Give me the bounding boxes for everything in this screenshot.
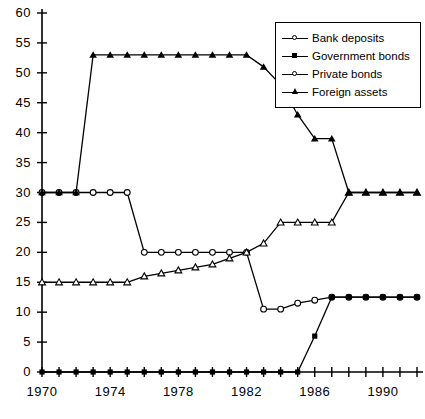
y-tick-label: 55	[0, 35, 31, 50]
legend-item[interactable]: Bank deposits	[282, 29, 412, 47]
y-tick-label: 15	[0, 274, 31, 289]
x-tick-label: 1978	[148, 384, 208, 399]
y-tick-label: 0	[0, 364, 31, 379]
y-tick-label: 25	[0, 214, 31, 229]
y-tick-label: 30	[0, 185, 31, 200]
legend-marker-filled-triangle-icon	[282, 85, 308, 99]
series-bank-deposits	[39, 190, 420, 312]
x-tick-label: 1974	[80, 384, 140, 399]
legend-item[interactable]: Foreign assets	[282, 83, 412, 101]
x-tick-label: 1990	[353, 384, 413, 399]
chart-root: 0510152025303540455055601970197419781982…	[0, 0, 425, 419]
legend-label: Bank deposits	[312, 32, 384, 44]
y-tick-label: 10	[0, 304, 31, 319]
legend-label: Government bonds	[312, 50, 410, 62]
x-tick-label: 1970	[12, 384, 72, 399]
x-tick-label: 1982	[217, 384, 277, 399]
legend-marker-open-circle-icon	[282, 31, 308, 45]
legend-label: Foreign assets	[312, 86, 387, 98]
y-tick-label: 50	[0, 65, 31, 80]
legend-marker-open-circle-icon	[282, 67, 308, 81]
x-tick-label: 1986	[285, 384, 345, 399]
y-tick-label: 60	[0, 5, 31, 20]
chart-legend: Bank depositsGovernment bondsPrivate bon…	[275, 22, 421, 108]
legend-label: Private bonds	[312, 68, 382, 80]
legend-item[interactable]: Private bonds	[282, 65, 412, 83]
y-tick-label: 5	[0, 334, 31, 349]
y-tick-label: 20	[0, 244, 31, 259]
series-private-bonds	[39, 189, 421, 285]
y-tick-label: 45	[0, 95, 31, 110]
y-tick-label: 40	[0, 125, 31, 140]
legend-marker-filled-square-icon	[282, 49, 308, 63]
y-tick-label: 35	[0, 155, 31, 170]
series-government-bonds	[39, 295, 419, 375]
legend-item[interactable]: Government bonds	[282, 47, 412, 65]
